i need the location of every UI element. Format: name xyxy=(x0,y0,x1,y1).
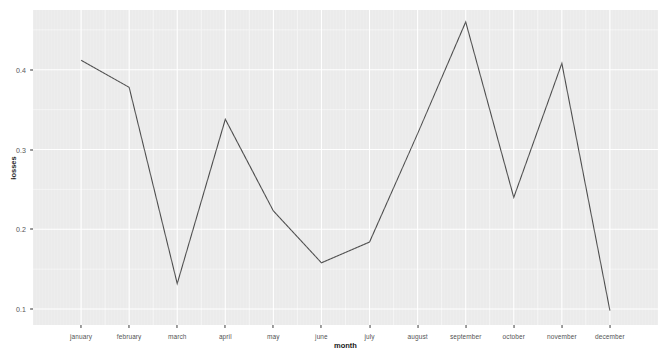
x-tick-label: june xyxy=(315,333,328,340)
y-axis-title: losses xyxy=(9,156,18,179)
x-tick-mark xyxy=(129,325,130,328)
x-tick-mark xyxy=(561,325,562,328)
x-tick-mark xyxy=(609,325,610,328)
grid-minor-lines xyxy=(33,10,658,325)
y-tick-label: 0.1 xyxy=(16,306,26,313)
y-axis: losses 0.10.20.30.4 xyxy=(0,10,33,325)
y-tick-label: 0.2 xyxy=(16,226,26,233)
x-tick-label: may xyxy=(267,333,280,340)
x-tick-label: december xyxy=(595,333,625,340)
x-tick-mark xyxy=(273,325,274,328)
x-tick-mark xyxy=(465,325,466,328)
plot-panel xyxy=(33,10,658,325)
x-tick-mark xyxy=(513,325,514,328)
x-tick-mark xyxy=(321,325,322,328)
x-tick-label: august xyxy=(408,333,428,340)
x-tick-label: july xyxy=(364,333,374,340)
x-tick-label: october xyxy=(503,333,525,340)
x-tick-mark xyxy=(225,325,226,328)
x-tick-mark xyxy=(177,325,178,328)
x-tick-mark xyxy=(417,325,418,328)
x-tick-label: march xyxy=(168,333,187,340)
x-tick-label: november xyxy=(547,333,577,340)
x-tick-mark xyxy=(81,325,82,328)
plot-area xyxy=(33,10,658,325)
line-chart: losses 0.10.20.30.4 januaryfebruarymarch… xyxy=(0,0,666,356)
x-tick-label: february xyxy=(117,333,142,340)
x-tick-mark xyxy=(369,325,370,328)
y-tick-label: 0.3 xyxy=(16,146,26,153)
x-tick-label: april xyxy=(219,333,232,340)
x-tick-label: september xyxy=(450,333,482,340)
y-tick-label: 0.4 xyxy=(16,66,26,73)
x-axis-title: month xyxy=(33,341,658,350)
x-tick-label: january xyxy=(70,333,92,340)
